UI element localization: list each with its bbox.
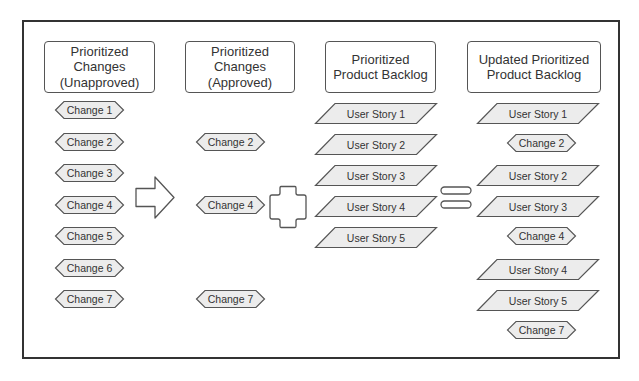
change-hexagon: Change 2 <box>507 134 576 152</box>
plus-icon <box>268 185 308 229</box>
change-label: Change 3 <box>55 164 124 182</box>
user-story-label: User Story 3 <box>477 196 599 217</box>
header-prioritized-changes-approved: Prioritized Changes (Approved) <box>185 41 295 93</box>
header-prioritized-product-backlog: Prioritized Product Backlog <box>325 41 436 93</box>
change-hexagon: Change 6 <box>55 259 124 277</box>
change-hexagon: Change 3 <box>55 164 124 182</box>
change-label: Change 4 <box>196 196 265 214</box>
change-label: Change 7 <box>196 290 265 308</box>
user-story-parallelogram: User Story 4 <box>477 259 599 280</box>
change-label: Change 4 <box>507 227 576 245</box>
user-story-label: User Story 5 <box>315 227 437 248</box>
user-story-parallelogram: User Story 2 <box>315 134 437 155</box>
user-story-label: User Story 2 <box>315 134 437 155</box>
header-updated-prioritized-product-backlog: Updated Prioritized Product Backlog <box>467 41 601 93</box>
change-label: Change 2 <box>196 133 265 151</box>
change-label: Change 2 <box>55 133 124 151</box>
change-hexagon: Change 7 <box>196 290 265 308</box>
user-story-parallelogram: User Story 5 <box>315 227 437 248</box>
user-story-label: User Story 1 <box>477 103 599 124</box>
change-hexagon: Change 4 <box>55 196 124 214</box>
header-prioritized-changes-unapproved: Prioritized Changes (Unapproved) <box>44 41 155 93</box>
equals-icon <box>440 186 473 210</box>
change-hexagon: Change 2 <box>196 133 265 151</box>
change-label: Change 6 <box>55 259 124 277</box>
user-story-parallelogram: User Story 1 <box>315 103 437 124</box>
change-hexagon: Change 4 <box>196 196 265 214</box>
change-label: Change 5 <box>55 227 124 245</box>
change-hexagon: Change 2 <box>55 133 124 151</box>
user-story-label: User Story 1 <box>315 103 437 124</box>
user-story-label: User Story 3 <box>315 165 437 186</box>
user-story-parallelogram: User Story 4 <box>315 196 437 217</box>
user-story-label: User Story 4 <box>315 196 437 217</box>
user-story-parallelogram: User Story 5 <box>477 290 599 311</box>
user-story-parallelogram: User Story 2 <box>477 165 599 186</box>
change-hexagon: Change 1 <box>55 101 124 119</box>
user-story-label: User Story 5 <box>477 290 599 311</box>
change-hexagon: Change 5 <box>55 227 124 245</box>
change-label: Change 4 <box>55 196 124 214</box>
change-hexagon: Change 7 <box>55 290 124 308</box>
change-label: Change 1 <box>55 101 124 119</box>
right-arrow-icon <box>133 175 177 220</box>
user-story-parallelogram: User Story 1 <box>477 103 599 124</box>
change-label: Change 7 <box>55 290 124 308</box>
user-story-label: User Story 2 <box>477 165 599 186</box>
change-label: Change 7 <box>507 321 576 339</box>
change-hexagon: Change 7 <box>507 321 576 339</box>
change-hexagon: Change 4 <box>507 227 576 245</box>
change-label: Change 2 <box>507 134 576 152</box>
user-story-parallelogram: User Story 3 <box>315 165 437 186</box>
user-story-parallelogram: User Story 3 <box>477 196 599 217</box>
user-story-label: User Story 4 <box>477 259 599 280</box>
